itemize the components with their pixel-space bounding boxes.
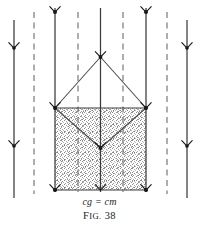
figure-38-container: cg = cm FIG. 38 [0,0,199,229]
figure-diagram [0,0,199,229]
solid-field-lines [14,8,187,198]
